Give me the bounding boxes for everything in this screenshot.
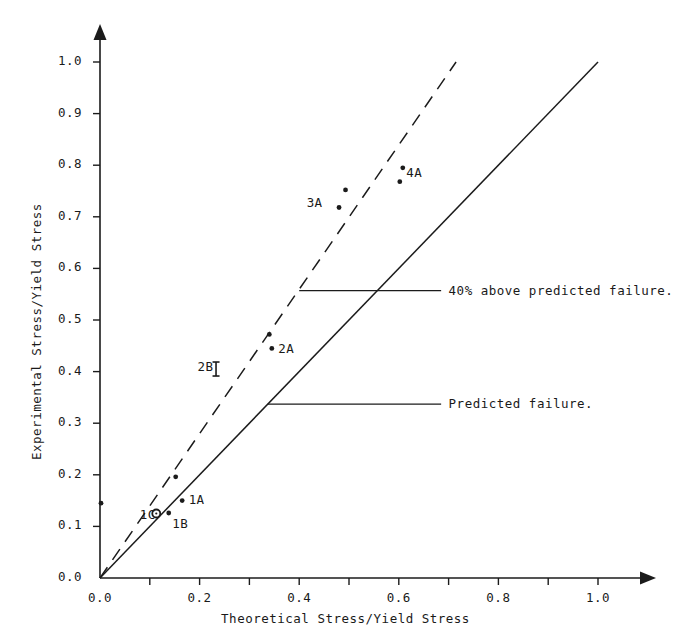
data-point-marker-dot [343, 188, 348, 193]
scatter-plot-svg [0, 0, 691, 636]
y-axis-tick-label: 0.5 [42, 311, 82, 326]
point-label-2a: 2A [278, 341, 294, 356]
point-label-1a: 1A [189, 492, 205, 507]
x-axis-title: Theoretical Stress/Yield Stress [0, 611, 691, 626]
data-point-marker-dot [173, 474, 178, 479]
x-axis-tick-label: 0.2 [177, 590, 223, 605]
annotation-40-percent-text: 40% above predicted failure. [449, 283, 674, 298]
data-point-marker-dot [397, 179, 402, 184]
data-point-marker-dot [267, 332, 272, 337]
x-axis-tick-label: 0.6 [376, 590, 422, 605]
y-axis-tick-label: 0.4 [42, 363, 82, 378]
data-point-marker-dot [400, 165, 405, 170]
y-axis-tick-label: 1.0 [42, 53, 82, 68]
y-axis-tick-label: 0.9 [42, 105, 82, 120]
x-axis-arrowhead [640, 572, 656, 585]
point-label-3a: 3A [307, 195, 323, 210]
data-point-marker-dot [180, 498, 185, 503]
data-point-marker-dot [337, 205, 342, 210]
data-point-marker-dot [99, 501, 104, 506]
y-axis-tick-label: 0.0 [42, 569, 82, 584]
predicted-failure-line [100, 62, 598, 578]
forty-percent-above-line [100, 62, 456, 578]
data-point-marker-errorbar [213, 362, 220, 376]
y-axis-tick-label: 0.2 [42, 466, 82, 481]
y-axis-tick-label: 0.8 [42, 156, 82, 171]
y-axis-arrowhead [94, 24, 107, 40]
x-axis-tick-label: 0.4 [276, 590, 322, 605]
y-axis-tick-label: 0.7 [42, 208, 82, 223]
data-point-marker-dot [166, 511, 171, 516]
y-axis-tick-label: 0.6 [42, 259, 82, 274]
y-axis-tick-label: 0.3 [42, 414, 82, 429]
point-label-1b: 1B [172, 516, 188, 531]
annotation-predicted-text: Predicted failure. [449, 396, 593, 411]
data-point-marker-dot [269, 346, 274, 351]
point-label-4a: 4A [406, 165, 422, 180]
x-axis-tick-label: 0.8 [475, 590, 521, 605]
figure-container: Experimental Stress/Yield Stress Theoret… [0, 0, 691, 636]
x-axis-tick-label: 1.0 [575, 590, 621, 605]
x-axis-tick-label: 0.0 [77, 590, 123, 605]
y-axis-tick-label: 0.1 [42, 517, 82, 532]
point-label-2b: 2B [198, 359, 214, 374]
point-label-1c: 1C [140, 507, 156, 522]
